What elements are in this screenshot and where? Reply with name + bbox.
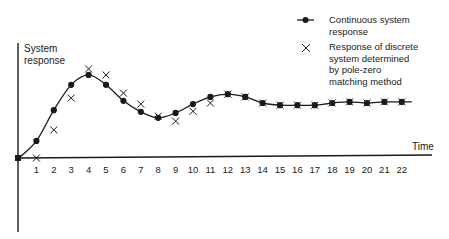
cross-marker	[103, 71, 110, 78]
dot-marker	[364, 100, 370, 106]
dot-marker	[155, 115, 161, 121]
x-tick-label: 8	[156, 164, 161, 175]
dot-marker	[173, 110, 179, 116]
x-tick-label: 22	[397, 164, 408, 175]
x-tick-labels: 12345678910111213141516171819202122	[34, 164, 407, 175]
dot-marker	[138, 109, 144, 115]
dot-marker	[312, 102, 318, 108]
x-tick-label: 20	[362, 164, 373, 175]
cross-marker	[85, 65, 92, 72]
dot-marker	[294, 102, 300, 108]
x-tick-label: 17	[310, 164, 321, 175]
y-axis-label-line2: response	[24, 55, 66, 66]
dot-marker	[190, 101, 196, 107]
cross-marker	[120, 90, 127, 97]
x-tick-label: 9	[173, 164, 178, 175]
dot-marker	[86, 72, 92, 78]
y-axis-label-line1: System	[24, 43, 57, 54]
dot-marker	[225, 91, 231, 97]
cross-marker	[137, 101, 144, 108]
x-tick-label: 6	[121, 164, 126, 175]
legend-label: Continuous system	[329, 14, 410, 25]
x-tick-label: 19	[344, 164, 355, 175]
x-tick-label: 14	[257, 164, 268, 175]
legend-label: Response of discrete	[329, 41, 418, 52]
legend-label: matching method	[329, 76, 402, 87]
response-chart: 12345678910111213141516171819202122 Syst…	[0, 0, 449, 239]
dot-marker	[260, 100, 266, 106]
dot-marker	[120, 98, 126, 104]
x-tick-label: 10	[188, 164, 199, 175]
cross-marker	[68, 95, 75, 102]
x-tick-label: 11	[205, 164, 215, 175]
continuous-response-curve	[19, 75, 412, 158]
x-tick-label: 16	[292, 164, 303, 175]
x-tick-label: 21	[379, 164, 390, 175]
legend-label: system determined	[329, 53, 409, 64]
x-tick-label: 1	[34, 164, 39, 175]
dot-marker	[329, 100, 335, 106]
x-tick-label: 2	[51, 164, 56, 175]
x-tick-label: 13	[240, 164, 251, 175]
cross-marker	[172, 118, 179, 125]
legend-label: by pole-zero	[329, 64, 381, 75]
legend: Continuous systemresponseResponse of dis…	[297, 14, 418, 87]
x-tick-label: 12	[223, 164, 234, 175]
x-tick-label: 3	[69, 164, 74, 175]
dot-marker	[347, 99, 353, 105]
legend-dot-icon	[303, 17, 309, 23]
dot-marker	[207, 94, 213, 100]
x-axis-label: Time	[412, 141, 434, 152]
legend-cross-icon	[302, 44, 310, 52]
x-tick-label: 4	[86, 164, 91, 175]
dot-marker	[103, 82, 109, 88]
cross-marker	[207, 100, 214, 107]
dot-marker	[399, 99, 405, 105]
dot-marker	[68, 82, 74, 88]
cross-marker	[50, 126, 57, 133]
dot-marker	[51, 107, 57, 113]
x-tick-label: 18	[327, 164, 338, 175]
dot-marker	[33, 138, 39, 144]
cross-marker	[190, 108, 197, 115]
x-tick-label: 15	[275, 164, 286, 175]
dot-marker	[381, 99, 387, 105]
x-tick-label: 5	[103, 164, 108, 175]
dot-marker	[277, 102, 283, 108]
dot-marker	[242, 94, 248, 100]
legend-label: response	[329, 26, 368, 37]
x-tick-label: 7	[138, 164, 143, 175]
